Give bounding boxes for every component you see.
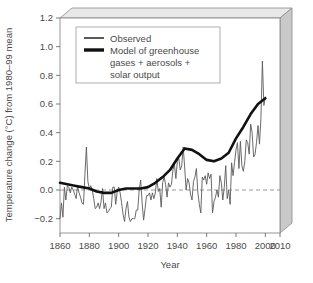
x-axis-title: Year [160, 259, 179, 270]
y-tick-label: −0.2 [34, 213, 53, 224]
y-axis: −0.20.00.20.40.60.81.01.2 [34, 12, 60, 224]
x-axis: 186018801900192019401960198020002010 [49, 233, 290, 251]
y-tick-label: 1.0 [40, 41, 53, 52]
y-tick-label: 0.6 [40, 98, 53, 109]
x-tick-label: 1900 [108, 240, 129, 251]
y-tick-label: 0.2 [40, 156, 53, 167]
legend-label-model-line1: Model of greenhouse [110, 45, 199, 56]
x-tick-label: 1880 [79, 240, 100, 251]
legend-label-model-line2: gases + aerosols + [110, 57, 191, 68]
x-tick-label: 2010 [269, 240, 290, 251]
chart-legend: Observed Model of greenhouse gases + aer… [76, 27, 220, 83]
x-tick-label: 1860 [49, 240, 70, 251]
frame-right-face [280, 8, 292, 233]
climate-temperature-chart: −0.20.00.20.40.60.81.01.2 18601880190019… [0, 0, 313, 283]
y-tick-label: 0.4 [40, 127, 53, 138]
y-tick-label: 0.0 [40, 184, 53, 195]
x-tick-label: 1980 [225, 240, 246, 251]
chart-canvas: −0.20.00.20.40.60.81.01.2 18601880190019… [0, 0, 313, 283]
legend-label-observed: Observed [110, 33, 151, 44]
x-tick-label: 1940 [167, 240, 188, 251]
y-tick-label: 1.2 [40, 12, 53, 23]
y-axis-title: Temperature change (°C) from 1980–99 mea… [3, 28, 14, 222]
legend-label-model-line3: solar output [110, 69, 160, 80]
x-tick-label: 1920 [137, 240, 158, 251]
x-tick-label: 1960 [196, 240, 217, 251]
frame-top-face [60, 8, 292, 18]
y-tick-label: 0.8 [40, 70, 53, 81]
